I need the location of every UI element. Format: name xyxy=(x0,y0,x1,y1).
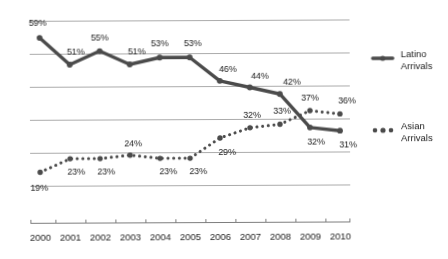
legend-label-asian-line1: Asian xyxy=(401,120,433,132)
data-label: 55% xyxy=(91,32,109,42)
chart-legend: Latino Arrivals Asian Arrivals xyxy=(371,0,448,258)
x-axis-tick xyxy=(175,219,176,223)
x-axis-label-2002: 2002 xyxy=(90,231,111,242)
x-axis-label-2003: 2003 xyxy=(120,231,141,242)
data-label: 23% xyxy=(189,166,207,176)
x-axis-line xyxy=(30,221,350,223)
x-axis xyxy=(30,221,350,230)
x-axis-tick xyxy=(325,219,326,223)
legend-label-asian: Asian Arrivals xyxy=(401,120,433,144)
data-point xyxy=(97,156,102,161)
x-axis-label-2004: 2004 xyxy=(150,231,171,242)
x-axis-label-2006: 2006 xyxy=(210,231,231,242)
x-axis-tick xyxy=(349,218,350,222)
x-axis-tick xyxy=(295,219,296,223)
data-label: 31% xyxy=(339,140,357,150)
data-label: 32% xyxy=(243,110,261,120)
legend-label-asian-line2: Arrivals xyxy=(401,132,433,144)
data-label: 19% xyxy=(30,182,48,192)
chart-root: 59%51%55%51%53%53%46%44%42%32%31%19%23%2… xyxy=(0,0,448,259)
data-label: 53% xyxy=(184,38,202,48)
data-label: 44% xyxy=(251,70,269,80)
x-axis-label-2009: 2009 xyxy=(300,231,321,242)
x-axis-label-2008: 2008 xyxy=(270,231,291,242)
data-label: 46% xyxy=(219,64,237,74)
data-point xyxy=(307,125,313,131)
x-axis-tick xyxy=(115,219,116,223)
data-label: 23% xyxy=(67,167,85,177)
data-point xyxy=(67,62,73,68)
data-point xyxy=(97,48,103,54)
x-axis-tick xyxy=(145,219,146,223)
legend-label-latino-line1: Latino xyxy=(401,48,433,60)
dotted-line-marker-icon xyxy=(372,126,394,132)
data-label: 36% xyxy=(338,96,356,106)
data-point xyxy=(187,156,192,161)
x-axis-label-2000: 2000 xyxy=(30,232,51,243)
data-point xyxy=(277,122,282,127)
data-point xyxy=(187,54,193,60)
data-point xyxy=(37,170,42,175)
x-axis-label-2001: 2001 xyxy=(60,232,81,243)
data-point xyxy=(37,35,43,41)
data-point xyxy=(67,156,72,161)
data-point xyxy=(307,108,312,113)
data-label: 51% xyxy=(67,47,85,57)
data-point xyxy=(247,125,252,130)
data-label: 33% xyxy=(273,106,291,116)
x-axis-tick xyxy=(85,220,86,224)
data-label: 51% xyxy=(128,46,146,56)
legend-label-latino: Latino Arrivals xyxy=(401,48,433,72)
data-point xyxy=(337,111,342,116)
data-label: 37% xyxy=(301,93,319,103)
data-label: 23% xyxy=(97,167,115,177)
data-point xyxy=(217,78,223,84)
legend-label-latino-line2: Arrivals xyxy=(401,60,433,72)
data-point xyxy=(157,55,163,61)
data-point xyxy=(247,84,253,90)
data-label: 32% xyxy=(307,136,325,146)
data-point xyxy=(277,91,283,97)
x-axis-label-2007: 2007 xyxy=(240,231,261,242)
data-label: 53% xyxy=(151,38,169,48)
x-axis-label-2010: 2010 xyxy=(330,230,351,241)
data-label: 42% xyxy=(283,77,301,87)
x-axis-label-2005: 2005 xyxy=(180,231,201,242)
x-axis-tick xyxy=(265,219,266,223)
series-line-asian xyxy=(40,111,340,173)
data-point xyxy=(217,135,222,140)
plot-area: 59%51%55%51%53%53%46%44%42%32%31%19%23%2… xyxy=(29,13,350,198)
x-axis-tick xyxy=(30,220,31,224)
data-point xyxy=(127,61,133,67)
x-axis-tick xyxy=(235,219,236,223)
data-label: 59% xyxy=(29,18,47,28)
data-point xyxy=(337,128,343,134)
data-point xyxy=(157,156,162,161)
x-axis-labels: 2000200120022003200420052006200720082009… xyxy=(30,230,350,247)
data-label: 29% xyxy=(218,147,236,157)
data-label: 24% xyxy=(124,138,142,148)
x-axis-tick xyxy=(205,219,206,223)
data-label: 23% xyxy=(159,166,177,176)
x-axis-tick xyxy=(55,220,56,224)
solid-line-marker-icon xyxy=(372,54,394,60)
data-point xyxy=(127,152,132,157)
